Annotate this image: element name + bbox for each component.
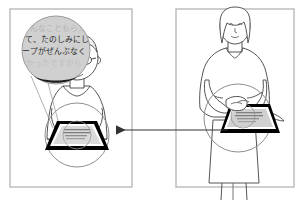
magnifier-line-4: かったですから	[26, 59, 82, 68]
magnifier-line-1: んなこともらえ	[30, 24, 86, 33]
magnifier-line-2: て、たのしみにし	[25, 35, 89, 44]
illustration-scene: んなこともらえ て、たのしみにし ープがぜんぶなく かったですから	[0, 0, 302, 206]
illustration-canvas: んなこともらえ て、たのしみにし ープがぜんぶなく かったですから	[0, 0, 302, 206]
screen-text-magnifier: んなこともらえ て、たのしみにし ープがぜんぶなく かったですから	[22, 16, 90, 84]
magnifier-line-3: ープがぜんぶなく	[22, 46, 86, 56]
